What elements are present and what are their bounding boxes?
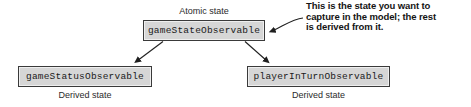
node-game-state-observable: gameStateObservable (143, 20, 265, 41)
state-diagram-figure: Atomic state gameStateObservable gameSta… (0, 0, 471, 107)
node-player-in-turn-observable-label: playerInTurnObservable (254, 71, 384, 82)
callout-line-annotation (272, 18, 303, 31)
node-game-status-observable-label: gameStatusObservable (26, 71, 144, 82)
connector-atomic-to-derived-right (245, 42, 267, 62)
atomic-state-caption: Atomic state (143, 6, 265, 16)
annotation-callout: This is the state you want to capture in… (306, 1, 471, 33)
annotation-line-3: is derived from it. (306, 22, 471, 33)
derived-state-caption-left: Derived state (18, 90, 152, 100)
node-game-status-observable: gameStatusObservable (18, 66, 152, 87)
connector-atomic-to-derived-left (137, 42, 163, 62)
derived-state-caption-right: Derived state (247, 90, 390, 100)
node-player-in-turn-observable: playerInTurnObservable (247, 66, 390, 87)
annotation-line-1: This is the state you want to (306, 1, 471, 12)
node-game-state-observable-label: gameStateObservable (148, 25, 260, 36)
